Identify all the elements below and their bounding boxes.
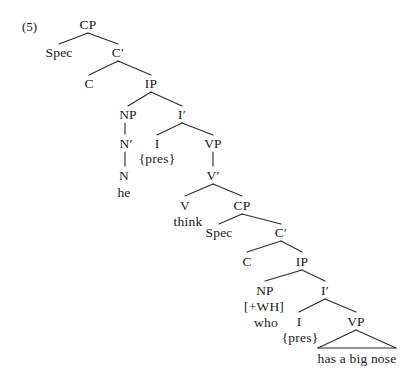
branch-ip2-np2 (265, 270, 302, 281)
branch-ip1-np1 (128, 92, 151, 106)
node-n-subject: N (119, 169, 129, 182)
syntax-tree-figure: (5) CP Spec C′ C IP NP I′ N′ I {pres} VP… (0, 0, 417, 384)
node-i-embedded-features: {pres} (282, 331, 319, 344)
triangle-right-edge (356, 330, 396, 348)
branch-vbar1-v1 (185, 184, 213, 196)
node-np-wh-features: [+WH] (244, 300, 284, 313)
branch-ibar1-i1 (157, 123, 182, 135)
node-cp-matrix: CP (80, 18, 97, 31)
branch-ibar2-i2 (299, 299, 325, 312)
branch-ibar1-vp1 (182, 123, 213, 135)
terminal-wh-who: who (254, 316, 278, 329)
branch-cp1-cbar1 (88, 33, 118, 44)
branch-cp2-cbar2 (242, 214, 281, 224)
node-cbar-matrix: C′ (112, 46, 124, 59)
branch-cbar2-ip2 (281, 241, 302, 252)
node-cp-embedded: CP (234, 199, 251, 212)
node-vp-matrix: VP (204, 137, 222, 150)
terminal-subject-he: he (117, 186, 130, 199)
node-i-matrix: I (155, 137, 160, 150)
branch-ip1-ibar1 (151, 92, 182, 106)
node-ip-matrix: IP (145, 77, 157, 90)
branch-cp2-spec2 (219, 214, 242, 224)
branch-cbar2-c2 (247, 241, 281, 252)
node-vbar-matrix: V′ (206, 169, 219, 182)
node-ibar-embedded: I′ (321, 284, 329, 297)
branch-cp1-spec1 (59, 33, 88, 44)
node-spec-matrix: Spec (45, 46, 72, 59)
node-ibar-matrix: I′ (178, 108, 186, 121)
branch-vbar1-cp2 (213, 184, 242, 196)
branch-ibar2-vp2 (325, 299, 356, 312)
node-cbar-embedded: C′ (275, 226, 287, 239)
branch-cbar1-ip1 (118, 61, 151, 75)
node-spec-embedded: Spec (205, 226, 232, 239)
node-i-embedded: I (297, 315, 302, 328)
node-vp-embedded: VP (347, 315, 365, 328)
node-i-matrix-features: {pres} (139, 152, 176, 165)
triangle-left-edge (318, 330, 356, 348)
node-np-wh: NP (256, 284, 274, 297)
terminal-vp-phrase: has a big nose (318, 352, 397, 365)
node-c-embedded: C (242, 255, 251, 268)
branch-ip2-ibar2 (302, 270, 325, 281)
node-v-matrix: V (180, 199, 190, 212)
node-np-subject: NP (119, 108, 137, 121)
example-number: (5) (22, 20, 37, 33)
terminal-verb-think: think (174, 215, 203, 228)
node-nbar-subject: N′ (119, 137, 132, 150)
node-c-matrix: C (84, 77, 93, 90)
branch-cbar1-c1 (89, 61, 118, 75)
node-ip-embedded: IP (296, 255, 308, 268)
